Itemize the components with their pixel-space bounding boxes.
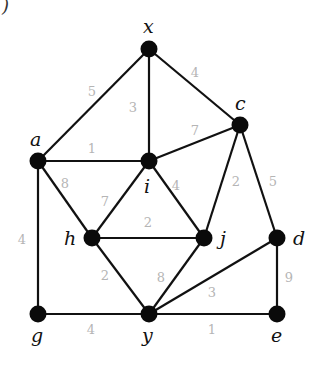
edge-weight-c-d: 5 <box>269 174 277 189</box>
edge-weight-g-y: 4 <box>87 322 95 337</box>
node-label-a: a <box>30 128 41 150</box>
node-j <box>196 230 213 247</box>
node-g <box>30 306 47 323</box>
node-x <box>141 41 158 58</box>
node-label-i: i <box>144 175 150 197</box>
node-i <box>141 153 158 170</box>
node-e <box>269 306 286 323</box>
node-label-y: y <box>141 324 153 346</box>
edge-weight-h-j: 2 <box>144 215 152 230</box>
weights-layer: 534178474252283941 <box>18 65 293 337</box>
node-a <box>30 153 47 170</box>
corner-fragment: ) <box>1 0 9 16</box>
edge-weight-y-d: 3 <box>208 285 216 300</box>
edge-weight-j-y: 8 <box>157 270 165 285</box>
node-label-g: g <box>31 324 43 346</box>
edge-weight-a-h: 8 <box>61 176 69 191</box>
edge-weight-x-i: 3 <box>129 100 137 115</box>
edge-y-d <box>149 238 277 314</box>
node-c <box>232 117 249 134</box>
edge-weight-a-g: 4 <box>18 232 26 247</box>
edge-weight-i-j: 4 <box>172 178 180 193</box>
edge-weight-h-y: 2 <box>101 268 109 283</box>
edge-i-j <box>149 161 204 238</box>
edge-weight-c-j: 2 <box>232 174 240 189</box>
node-label-d: d <box>293 227 305 249</box>
edge-weight-i-c: 7 <box>191 123 199 138</box>
edge-weight-y-e: 1 <box>208 322 216 337</box>
edge-weight-a-i: 1 <box>88 141 96 156</box>
node-label-h: h <box>64 227 76 249</box>
edge-weight-i-h: 7 <box>101 194 109 209</box>
node-label-j: j <box>216 227 226 249</box>
node-label-x: x <box>143 15 154 37</box>
edge-weight-a-x: 5 <box>88 84 96 99</box>
edge-weight-x-c: 4 <box>191 65 199 80</box>
node-y <box>141 306 158 323</box>
graph-diagram: ) 534178474252283941 xacihjdgye <box>0 0 321 365</box>
node-h <box>84 230 101 247</box>
node-label-e: e <box>271 324 282 346</box>
node-d <box>269 230 286 247</box>
edge-x-c <box>149 49 240 125</box>
node-label-c: c <box>235 92 246 114</box>
edge-weight-d-e: 9 <box>285 270 293 285</box>
